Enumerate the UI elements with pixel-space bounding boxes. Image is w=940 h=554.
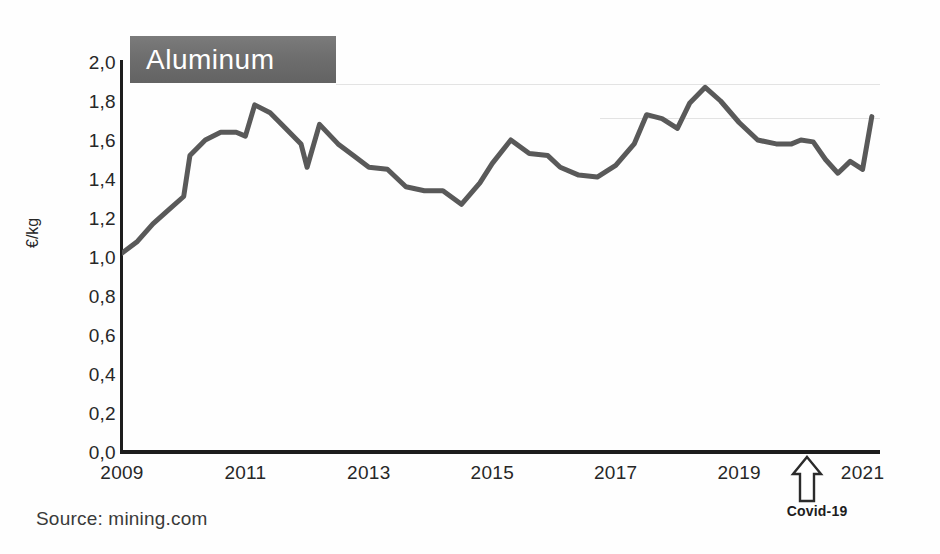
covid-annotation-label: Covid-19 [775, 503, 859, 519]
x-tick-label: 2019 [717, 462, 760, 484]
y-axis-title: €/kg [24, 218, 42, 248]
y-tick-label: 2,0 [70, 53, 116, 72]
plot-area [122, 62, 878, 452]
x-tick-label: 2017 [594, 462, 637, 484]
y-tick-label: 0,0 [70, 443, 116, 462]
price-line-series [122, 62, 878, 452]
x-tick-label: 2011 [224, 462, 266, 484]
y-tick-label: 1,2 [70, 209, 116, 228]
y-tick-label: 0,2 [70, 404, 116, 423]
x-tick-label: 2013 [347, 462, 390, 484]
y-tick-label: 0,8 [70, 287, 116, 306]
arrow-up-icon [790, 455, 824, 503]
source-note: Source: mining.com [36, 508, 208, 530]
y-tick-label: 1,8 [70, 92, 116, 111]
chart-title: Aluminum [146, 46, 274, 74]
y-tick-label: 0,4 [70, 365, 116, 384]
y-tick-label: 0,6 [70, 326, 116, 345]
x-tick-label: 2015 [471, 462, 514, 484]
y-tick-label: 1,0 [70, 248, 116, 267]
y-tick-label: 1,4 [70, 170, 116, 189]
covid-annotation: Covid-19 [780, 455, 864, 545]
chart-title-banner: Aluminum [130, 36, 336, 83]
chart-figure: 2,01,81,61,41,21,00,80,60,40,20,0 €/kg 2… [0, 0, 940, 554]
x-tick-label: 2009 [100, 462, 143, 484]
y-tick-label: 1,6 [70, 131, 116, 150]
